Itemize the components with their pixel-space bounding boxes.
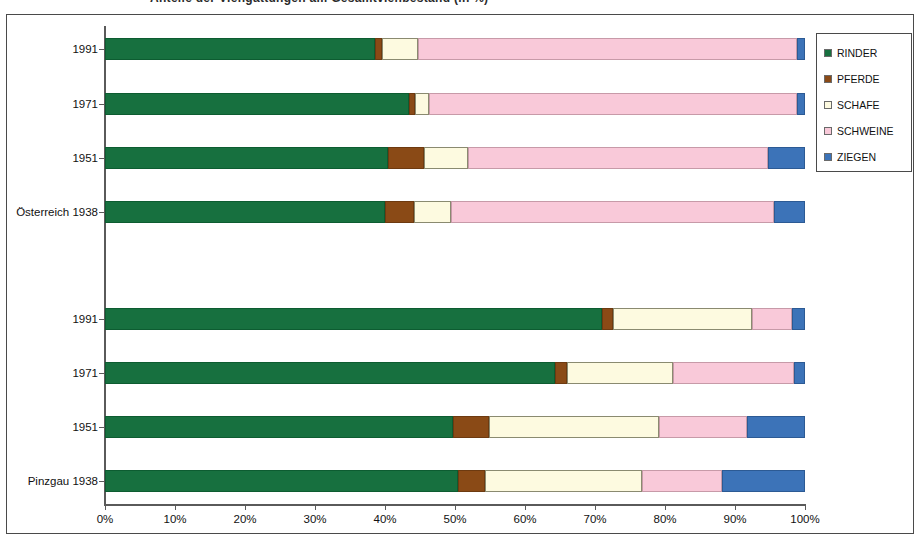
y-axis-tick — [99, 427, 105, 428]
legend-item-ziegen[interactable]: ZIEGEN — [817, 144, 911, 170]
bar-row — [105, 362, 805, 384]
bar-row — [105, 416, 805, 438]
y-axis-tick — [99, 158, 105, 159]
legend: RINDERPFERDESCHAFESCHWEINEZIEGEN — [816, 33, 912, 172]
legend-item-pferde[interactable]: PFERDE — [817, 66, 911, 92]
bar-segment-rinder — [105, 416, 453, 438]
y-axis-tick — [99, 481, 105, 482]
bar-row — [105, 93, 805, 115]
legend-item-schweine[interactable]: SCHWEINE — [817, 118, 911, 144]
bar-segment-ziegen — [768, 147, 805, 169]
bar-segment-pferde — [388, 147, 424, 169]
bar-segment-schafe — [414, 201, 451, 223]
legend-swatch-icon — [824, 101, 832, 109]
stacked-bar-chart: Anteile der Viehgattungen am Gesamtviehb… — [0, 0, 922, 546]
bar-segment-schafe — [382, 38, 418, 60]
legend-swatch-icon — [824, 153, 832, 161]
bar-segment-pferde — [555, 362, 567, 384]
y-axis-label: 1991 — [0, 308, 98, 330]
legend-item-schafe[interactable]: SCHAFE — [817, 92, 911, 118]
legend-item-label: PFERDE — [837, 74, 880, 85]
legend-swatch-icon — [824, 49, 832, 57]
y-axis-tick — [99, 49, 105, 50]
x-axis-tick-label: 40% — [355, 513, 415, 525]
bar-segment-schweine — [418, 38, 797, 60]
bar-segment-schafe — [613, 308, 752, 330]
legend-item-rinder[interactable]: RINDER — [817, 40, 911, 66]
bar-segment-pferde — [602, 308, 613, 330]
bar-row — [105, 38, 805, 60]
x-axis-tick-label: 90% — [705, 513, 765, 525]
bar-segment-ziegen — [774, 201, 805, 223]
bar-segment-pferde — [375, 38, 382, 60]
x-axis-tick-label: 50% — [425, 513, 485, 525]
bar-segment-pferde — [458, 470, 485, 492]
x-axis-tick — [385, 504, 386, 510]
x-axis-tick-label: 0% — [75, 513, 135, 525]
bar-segment-rinder — [105, 38, 375, 60]
x-axis-tick-label: 10% — [145, 513, 205, 525]
bar-segment-schweine — [429, 93, 797, 115]
y-axis-label: Pinzgau 1938 — [0, 470, 98, 492]
y-axis-label: 1951 — [0, 416, 98, 438]
x-axis-tick-label: 100% — [775, 513, 835, 525]
y-axis-tick — [99, 104, 105, 105]
x-axis-tick — [665, 504, 666, 510]
bar-segment-rinder — [105, 93, 409, 115]
bar-row — [105, 470, 805, 492]
y-axis-label: 1971 — [0, 362, 98, 384]
plot-frame — [6, 14, 914, 534]
x-axis-tick — [455, 504, 456, 510]
bar-segment-schweine — [642, 470, 722, 492]
bar-segment-schweine — [752, 308, 792, 330]
bar-segment-rinder — [105, 470, 458, 492]
bar-segment-rinder — [105, 308, 602, 330]
y-axis-tick — [99, 212, 105, 213]
bar-segment-schafe — [489, 416, 658, 438]
x-axis-tick — [525, 504, 526, 510]
bar-segment-schweine — [451, 201, 774, 223]
bar-segment-pferde — [453, 416, 489, 438]
x-axis-tick-label: 80% — [635, 513, 695, 525]
chart-title-strip: Anteile der Viehgattungen am Gesamtviehb… — [0, 0, 922, 14]
x-axis-tick — [105, 504, 106, 510]
x-axis-tick — [245, 504, 246, 510]
bar-row — [105, 147, 805, 169]
y-axis-label: 1991 — [0, 38, 98, 60]
bar-segment-schafe — [415, 93, 429, 115]
y-axis-tick — [99, 319, 105, 320]
bar-segment-schweine — [468, 147, 768, 169]
legend-item-label: SCHAFE — [837, 100, 880, 111]
x-axis-tick — [735, 504, 736, 510]
bar-segment-schweine — [673, 362, 794, 384]
bar-segment-ziegen — [722, 470, 805, 492]
legend-item-label: SCHWEINE — [837, 126, 894, 137]
bar-row — [105, 308, 805, 330]
bar-segment-rinder — [105, 147, 388, 169]
legend-item-label: ZIEGEN — [837, 152, 876, 163]
bar-segment-schafe — [485, 470, 642, 492]
y-axis-label: 1951 — [0, 147, 98, 169]
bar-segment-schafe — [567, 362, 673, 384]
x-axis-tick — [595, 504, 596, 510]
x-axis-tick — [315, 504, 316, 510]
bar-segment-pferde — [385, 201, 414, 223]
x-axis-tick-label: 60% — [495, 513, 555, 525]
x-axis-tick-label: 30% — [285, 513, 345, 525]
bar-segment-ziegen — [792, 308, 805, 330]
legend-swatch-icon — [824, 127, 832, 135]
x-axis-tick — [805, 504, 806, 510]
bar-row — [105, 201, 805, 223]
bar-segment-ziegen — [797, 93, 805, 115]
x-axis-tick — [175, 504, 176, 510]
y-axis-label: Österreich 1938 — [0, 201, 98, 223]
y-axis-tick — [99, 373, 105, 374]
bar-segment-ziegen — [747, 416, 805, 438]
y-axis-label: 1971 — [0, 93, 98, 115]
x-axis-tick-label: 20% — [215, 513, 275, 525]
bar-segment-rinder — [105, 201, 385, 223]
page-title: Anteile der Viehgattungen am Gesamtviehb… — [150, 0, 488, 5]
bar-segment-schafe — [424, 147, 468, 169]
bar-segment-rinder — [105, 362, 555, 384]
x-axis-tick-label: 70% — [565, 513, 625, 525]
